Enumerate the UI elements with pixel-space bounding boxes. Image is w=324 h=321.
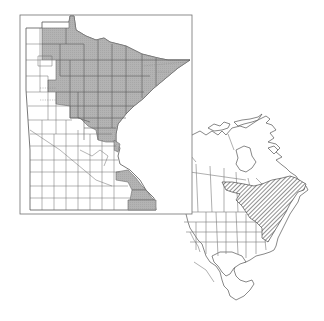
county-shaded <box>128 200 156 210</box>
arctic-islands <box>208 122 230 131</box>
gulf-of-mexico <box>212 252 246 276</box>
map-canvas <box>0 0 324 321</box>
distribution-map-figure <box>0 0 324 321</box>
minnesota-map <box>20 15 192 214</box>
